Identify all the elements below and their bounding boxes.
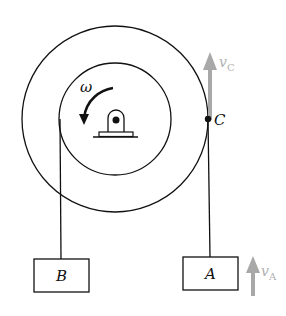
omega-label: ω <box>80 78 92 96</box>
velocity-arrow-a <box>246 256 260 296</box>
block-a-label: A <box>203 265 216 283</box>
omega-arrowhead-icon <box>79 114 89 125</box>
block-b-label: B <box>55 267 67 285</box>
rope-a <box>208 119 210 257</box>
pulley-diagram: vC C ω B A vA <box>0 0 286 316</box>
point-c <box>205 116 211 122</box>
vc-label: vC <box>219 54 235 73</box>
point-c-label: C <box>214 111 226 129</box>
rope-b <box>60 119 61 259</box>
va-label: vA <box>261 263 277 282</box>
velocity-arrow-c <box>203 52 217 120</box>
pin-support-icon <box>93 110 138 137</box>
